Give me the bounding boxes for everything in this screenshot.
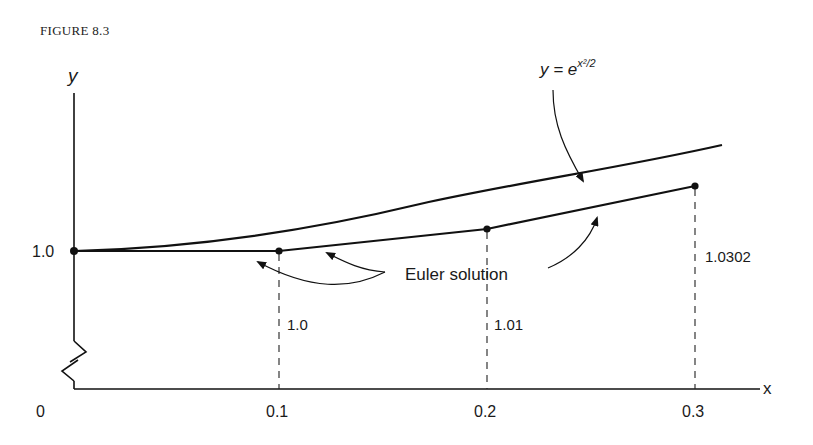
curve-label-exponent: x²/2 xyxy=(576,57,595,69)
euler-solution-line xyxy=(74,186,695,251)
x-tick-0-3: 0.3 xyxy=(682,403,704,420)
curve-label-base: y = e xyxy=(539,60,577,79)
exact-solution-curve xyxy=(74,145,722,251)
euler-label: Euler solution xyxy=(405,265,508,284)
y-axis xyxy=(62,93,86,389)
annotation-arrows xyxy=(258,90,597,284)
dashed-guides xyxy=(279,189,695,389)
point-label-0-3: 1.0302 xyxy=(705,248,751,265)
x-tick-0-2: 0.2 xyxy=(474,403,496,420)
euler-points xyxy=(70,182,699,255)
chart: y x 1.0 0 0.1 0.2 0.3 y = ex²/2 Euler so… xyxy=(0,0,813,445)
point-label-0-1: 1.0 xyxy=(287,316,308,333)
y-axis-label: y xyxy=(66,65,79,86)
curve-label: y = ex²/2 xyxy=(539,57,596,79)
point-label-0-2: 1.01 xyxy=(494,316,523,333)
x-axis-label: x xyxy=(763,379,772,398)
x-tick-0: 0 xyxy=(36,403,45,420)
x-tick-0-1: 0.1 xyxy=(266,403,288,420)
y-tick-1-0: 1.0 xyxy=(32,243,54,260)
